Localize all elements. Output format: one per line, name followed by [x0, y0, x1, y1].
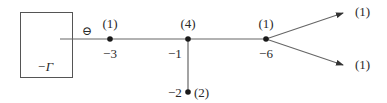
node-n2-value: −1	[168, 47, 182, 60]
node-n1-value: −3	[103, 47, 117, 60]
arrow-down-label: (1)	[355, 58, 370, 71]
arrow-down-edge	[266, 39, 343, 65]
node-n3-value: −2	[168, 86, 182, 99]
node-n2-weight: (4)	[180, 17, 195, 30]
node-n1-weight: (1)	[102, 17, 117, 30]
node-n1	[107, 36, 113, 42]
edge-sign-minus-circle: ⊖	[82, 25, 92, 38]
node-n3-weight: (2)	[194, 86, 209, 99]
arrow-up-label: (1)	[355, 5, 370, 18]
plumbing-graph-diagram: −Γ ⊖ (1) −3 (4) −1 −2 (2) (1) −6 (1) (1)	[0, 0, 387, 103]
node-n4-value: −6	[259, 47, 273, 60]
node-n4	[263, 36, 269, 42]
box-label: −Γ	[37, 60, 53, 73]
node-n3	[185, 89, 191, 95]
node-n4-weight: (1)	[258, 17, 273, 30]
arrow-up-edge	[266, 13, 343, 39]
node-n2	[185, 36, 191, 42]
